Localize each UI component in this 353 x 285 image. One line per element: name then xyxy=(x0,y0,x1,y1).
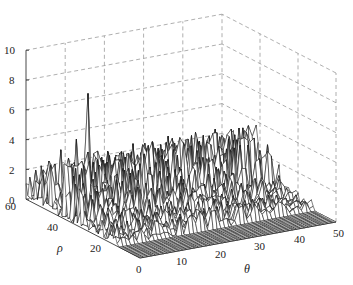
theta-tick-label: 0 xyxy=(136,263,142,275)
rho-tick-label: 40 xyxy=(47,221,59,233)
theta-tick-label: 30 xyxy=(254,240,266,252)
z-tick-label: 10 xyxy=(4,44,16,56)
z-tick-label: 6 xyxy=(9,104,15,116)
surface-mesh xyxy=(26,94,336,259)
z-tick-label: 4 xyxy=(9,134,15,146)
rho-tick-label: 60 xyxy=(5,200,17,212)
rho-axis-label: ρ xyxy=(56,241,63,255)
theta-tick-label: 20 xyxy=(215,248,227,260)
z-tick-label: 8 xyxy=(9,74,15,86)
surface-plot: 0 2 4 6 8 10 0 10 20 30 40 50 θ 20 40 60… xyxy=(0,0,353,285)
theta-tick-label: 10 xyxy=(176,255,188,267)
z-tick-label: 2 xyxy=(9,164,15,176)
theta-axis-label: θ xyxy=(244,262,250,276)
theta-tick-label: 40 xyxy=(294,233,306,245)
rho-tick-label: 20 xyxy=(90,242,102,254)
theta-tick-label: 50 xyxy=(333,227,345,239)
